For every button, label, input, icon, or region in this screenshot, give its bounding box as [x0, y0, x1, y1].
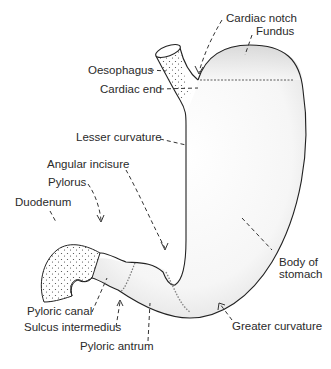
- label-greater-curvature: Greater curvature: [232, 320, 322, 333]
- label-pyloric-antrum: Pyloric antrum: [80, 340, 154, 353]
- lesser-curvature-pointer: [160, 139, 186, 145]
- duodenum-shape: [41, 245, 100, 302]
- pyloric-canal-pointer: [92, 278, 107, 312]
- label-lesser-curvature: Lesser curvature: [76, 131, 162, 144]
- fundus-region: [198, 45, 303, 80]
- label-cardiac-notch: Cardiac notch: [226, 12, 297, 25]
- angular-incisure-arrowhead: [161, 242, 168, 250]
- label-duodenum: Duodenum: [15, 196, 71, 209]
- duodenum-lumen-edge: [71, 278, 92, 296]
- angular-incisure-pointer: [126, 170, 165, 248]
- label-body-of-stomach-2: stomach: [279, 268, 322, 281]
- label-sulcus-intermedius: Sulcus intermedius: [24, 321, 121, 334]
- pylorus-pointer: [88, 184, 101, 220]
- label-oesophagus: Oesophagus: [88, 64, 153, 77]
- lesser-curvature-outline: [100, 100, 186, 285]
- label-pylorus: Pylorus: [48, 176, 86, 189]
- label-pyloric-canal: Pyloric canal: [27, 305, 92, 318]
- duodenum-pointer: [50, 211, 56, 222]
- label-fundus: Fundus: [256, 25, 294, 38]
- label-angular-incisure: Angular incisure: [47, 158, 129, 171]
- label-cardiac-end: Cardiac end: [100, 83, 162, 96]
